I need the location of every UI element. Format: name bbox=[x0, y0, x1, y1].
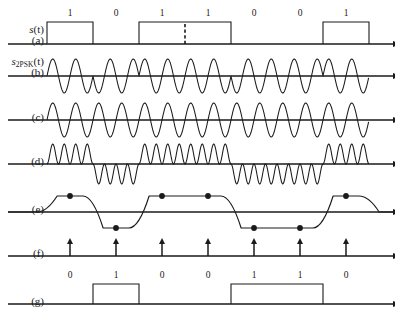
sampling-pulse-head-5 bbox=[297, 238, 303, 244]
row-label-d: (d) bbox=[31, 156, 44, 167]
sampling-pulse-head-4 bbox=[251, 238, 257, 244]
row-label-c: (c) bbox=[32, 112, 44, 123]
row-tag-c: (c) bbox=[32, 111, 44, 123]
bit-label-g-6: 0 bbox=[336, 271, 356, 281]
bit-label-g-1: 1 bbox=[106, 271, 126, 281]
bit-label-a-1: 0 bbox=[106, 9, 126, 19]
sampling-pulse-head-3 bbox=[205, 238, 211, 244]
bit-label-a-3: 1 bbox=[198, 9, 218, 19]
sample-dot-1 bbox=[113, 225, 119, 231]
sample-dot-5 bbox=[297, 225, 303, 231]
sample-dot-6 bbox=[343, 193, 349, 199]
sample-dot-0 bbox=[67, 193, 73, 199]
bit-label-g-4: 1 bbox=[244, 271, 264, 281]
row-tag-f: (f) bbox=[33, 247, 44, 259]
bit-label-a-0: 1 bbox=[60, 9, 80, 19]
bit-label-g-0: 0 bbox=[60, 271, 80, 281]
bit-label-g-5: 1 bbox=[290, 271, 310, 281]
sampling-pulse-head-1 bbox=[113, 238, 119, 244]
row-tag-g: (g) bbox=[31, 295, 44, 307]
bit-label-g-2: 0 bbox=[152, 271, 172, 281]
sampling-pulse-head-6 bbox=[343, 238, 349, 244]
row-label-f: (f) bbox=[33, 248, 44, 259]
bit-label-a-4: 0 bbox=[244, 9, 264, 19]
nrz-waveform-a bbox=[47, 22, 369, 44]
sampling-pulse-head-0 bbox=[67, 238, 73, 244]
row-label-e: (e) bbox=[32, 204, 44, 215]
sample-dot-2 bbox=[159, 193, 165, 199]
sample-dot-3 bbox=[205, 193, 211, 199]
row-tag-a: (a) bbox=[32, 34, 44, 46]
sampling-pulse-head-2 bbox=[159, 238, 165, 244]
sample-dot-4 bbox=[251, 225, 257, 231]
figure-canvas: ts(t)(a)1011001ts2PSK(t)(b)t(c)t(d)t(e)t… bbox=[0, 0, 395, 321]
nrz-waveform-g bbox=[93, 284, 323, 304]
bit-label-a-2: 1 bbox=[152, 9, 172, 19]
bit-label-a-6: 1 bbox=[336, 9, 356, 19]
row-label-a: s(t)(a) bbox=[29, 24, 44, 46]
row-label-g: (g) bbox=[31, 296, 44, 307]
row-label-b: s2PSK(t)(b) bbox=[11, 56, 44, 78]
bit-label-a-5: 0 bbox=[290, 9, 310, 19]
row-tag-d: (d) bbox=[31, 155, 44, 167]
bit-label-g-3: 0 bbox=[198, 271, 218, 281]
row-tag-e: (e) bbox=[32, 203, 44, 215]
